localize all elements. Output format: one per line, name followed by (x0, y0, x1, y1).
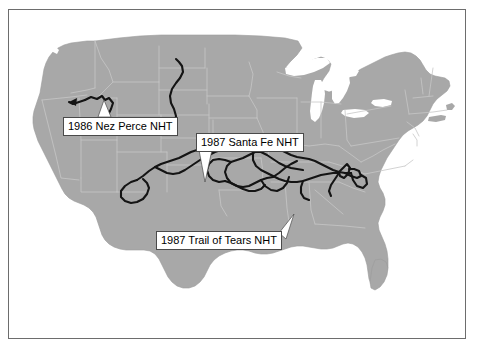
us-landmass (33, 35, 450, 288)
california-coast-bay (33, 162, 38, 170)
callout-label-santa-fe[interactable]: 1987 Santa Fe NHT (196, 133, 304, 152)
us-map-svg (9, 10, 465, 338)
puget-sound-notch (49, 40, 59, 54)
callout-label-nez-perce[interactable]: 1986 Nez Perce NHT (63, 117, 178, 136)
callout-text-santa-fe: 1987 Santa Fe NHT (201, 136, 299, 148)
long-island (428, 115, 446, 122)
map-frame (8, 9, 466, 339)
callout-label-trail-of-tears[interactable]: 1987 Trail of Tears NHT (156, 231, 282, 250)
chesapeake-bay (410, 142, 417, 159)
landmass-group (33, 35, 455, 290)
state-border-nc-coast (405, 160, 413, 166)
cape-cod (446, 103, 455, 110)
historic-trails-map-figure: 1986 Nez Perce NHT 1987 Santa Fe NHT 198… (0, 0, 482, 350)
callout-text-trail-of-tears: 1987 Trail of Tears NHT (161, 234, 277, 246)
callout-text-nez-perce: 1986 Nez Perce NHT (68, 120, 173, 132)
baja-gap (57, 228, 81, 250)
